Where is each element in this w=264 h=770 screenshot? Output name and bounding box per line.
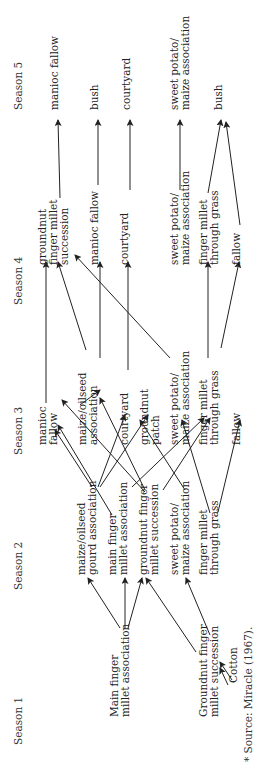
season-header-2: Season 2 (12, 542, 24, 590)
node-s3-maize: maize/oilseedassociation (76, 372, 99, 445)
node-s3-manioc: maniocfallow (36, 406, 59, 445)
node-s2-sweet: sweet potato/maize association (168, 481, 191, 575)
arrow-s3_sweet (75, 255, 170, 358)
node-s4-sweet: sweet potato/maize association (168, 171, 191, 265)
season-header-1: Season 1 (12, 697, 24, 745)
source-note: * Source: Miracle (1967). (242, 627, 254, 762)
node-line: manioc fallow (48, 36, 60, 110)
season-header-5: Season 5 (12, 62, 24, 110)
node-line: through grass (208, 500, 220, 575)
node-s4-gnut-fm: groundnutfinger milletsuccession (36, 199, 70, 265)
node-line: courtyard (118, 393, 130, 445)
season-header-3: Season 3 (12, 407, 24, 455)
node-s4-manioc: manioc fallow (88, 191, 100, 265)
arrow-s4_fm_grass (208, 120, 221, 193)
node-s1-cotton: Cotton (227, 647, 239, 683)
node-s1-gnut: Groundnut fingermillet succession (197, 623, 220, 717)
node-s3-sweet: sweet potato/maize association (168, 351, 191, 445)
arrow-s1_main (128, 578, 142, 628)
arrow-s1_main (88, 578, 120, 628)
node-line: millet succession (208, 626, 220, 717)
node-line: association (87, 385, 99, 445)
node-s2-fm-grass: finger milletthrough grass (197, 500, 220, 575)
node-line: maize association (179, 481, 191, 575)
node-line: fallow (230, 413, 242, 445)
node-line: succession (58, 207, 70, 265)
node-s3-courtyard: courtyard (118, 393, 130, 445)
node-s3-fm-grass: finger milletthrough grass (197, 370, 220, 445)
node-s3-gnut-patch: groundnutpatch (138, 388, 161, 445)
arrow-s4_fallow (226, 122, 240, 225)
node-s5-bush-b: bush (212, 84, 224, 110)
node-line: through grass (208, 370, 220, 445)
node-s2-maize-gourd: maize/oilseedgourd association (75, 480, 98, 575)
node-s4-courtyard: courtyard (118, 213, 130, 265)
node-s3-fallow: fallow (230, 413, 242, 445)
node-s5-courtyard: courtyard (120, 58, 132, 110)
node-line: fallow (230, 233, 242, 265)
node-s2-gnut: groundnut fingermillet succession (137, 483, 160, 575)
node-line: Cotton (227, 647, 239, 683)
crop-rotation-diagram: Season 1Season 2Season 3Season 4Season 5… (0, 0, 264, 770)
node-s5-sweet: sweet potato/maize association (168, 16, 191, 110)
node-line: courtyard (120, 58, 132, 110)
node-line: courtyard (118, 213, 130, 265)
node-s2-main: main fingermillet association (106, 481, 129, 575)
node-s1-main: Main fingermillet association (108, 623, 131, 717)
node-line: manioc fallow (88, 191, 100, 265)
node-line: maize association (179, 351, 191, 445)
node-line: millet succession (148, 484, 160, 575)
node-line: bush (212, 84, 224, 110)
arrow-s2_gnut (62, 400, 145, 492)
nodes-layer: Main fingermillet associationGroundnut f… (36, 16, 242, 717)
node-line: patch (149, 415, 161, 445)
node-s5-bush-a: bush (88, 84, 100, 110)
arrow-s1_gnut (146, 578, 196, 652)
arrow-s3_maize (58, 262, 86, 350)
node-line: gourd association (86, 480, 98, 575)
node-line: through grass (208, 190, 220, 265)
season-headers: Season 1Season 2Season 3Season 4Season 5 (12, 62, 24, 745)
node-line: maize association (179, 171, 191, 265)
season-header-4: Season 4 (12, 257, 24, 305)
node-line: millet association (117, 481, 129, 575)
node-line: bush (88, 84, 100, 110)
node-s5-manioc: manioc fallow (48, 36, 60, 110)
node-line: fallow (47, 413, 59, 445)
node-s4-fallow: fallow (230, 233, 242, 265)
node-s4-fm-grass: finger milletthrough grass (197, 190, 220, 265)
node-line: millet association (119, 623, 131, 717)
arrow-s4_gnut_fm (58, 120, 60, 198)
node-line: maize association (179, 16, 191, 110)
arrow-s3_fm_grass (221, 262, 239, 348)
